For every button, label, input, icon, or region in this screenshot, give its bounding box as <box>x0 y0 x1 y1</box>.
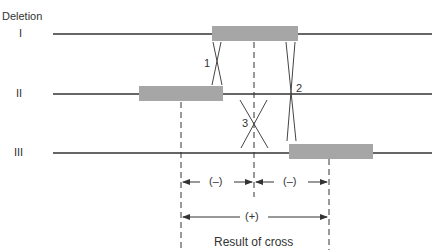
crossover-2 <box>286 42 296 141</box>
crossover-label-1: 1 <box>204 57 210 69</box>
crossover-label-3: 3 <box>242 117 248 129</box>
result-of-cross-label: Result of cross <box>214 235 293 249</box>
crossover-label-2: 2 <box>296 82 302 94</box>
deletion-box-I <box>212 26 298 41</box>
deletion-label-III: III <box>14 146 23 158</box>
deletion-label-I: I <box>19 27 22 39</box>
crossover-1 <box>212 42 222 85</box>
deletion-mapping-diagram <box>0 0 441 250</box>
deletion-box-II <box>139 86 223 101</box>
deletion-title: Deletion <box>2 10 42 22</box>
deletion-label-II: II <box>16 87 22 99</box>
interval-label-left: (–) <box>209 175 222 187</box>
interval-label-combined: (+) <box>245 210 259 222</box>
deletion-box-III <box>289 144 373 159</box>
interval-label-right: (–) <box>283 175 296 187</box>
